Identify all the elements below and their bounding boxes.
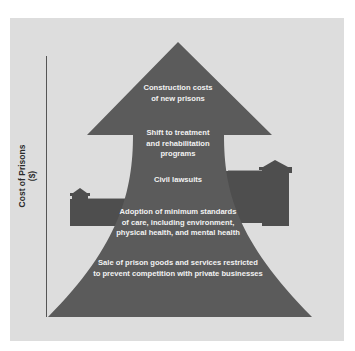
factor-line: and rehabilitation [146, 139, 209, 150]
factor-line: Sale of prison goods and services restri… [93, 258, 263, 269]
factor-minimum-standards: Adoption of minimum standards of care, i… [116, 207, 240, 239]
factor-line: physical health, and mental health [116, 228, 240, 239]
factor-civil-lawsuits: Civil lawsuits [154, 175, 202, 186]
y-axis-label-line2: ($) [27, 145, 37, 208]
factor-sales-restricted: Sale of prison goods and services restri… [93, 258, 263, 279]
factor-construction-costs: Construction costs of new prisons [143, 83, 212, 104]
factor-line: of new prisons [143, 94, 212, 105]
factor-line: Construction costs [143, 83, 212, 94]
y-axis-label: Cost of Prisons ($) [17, 145, 37, 208]
y-axis-label-line1: Cost of Prisons [17, 145, 27, 208]
factor-line: Adoption of minimum standards [116, 207, 240, 218]
factor-line: Shift to treatment [146, 128, 209, 139]
factor-line: to prevent competition with private busi… [93, 269, 263, 280]
factor-line: programs [146, 149, 209, 160]
factor-line: Civil lawsuits [154, 175, 202, 186]
factor-line: of care, including environment, [116, 218, 240, 229]
factor-treatment-shift: Shift to treatment and rehabilitation pr… [146, 128, 209, 160]
